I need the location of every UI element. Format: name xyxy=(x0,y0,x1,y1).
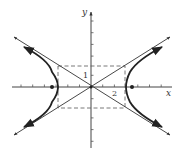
hyperbola-figure: y x 1 2 xyxy=(0,0,181,160)
y-tick-label-1: 1 xyxy=(83,71,88,80)
x-axis-label: x xyxy=(166,88,171,98)
y-axis-label: y xyxy=(81,7,88,17)
y-axis xyxy=(91,12,94,148)
focus-right xyxy=(130,85,134,89)
focus-left xyxy=(50,85,54,89)
x-tick-label-2: 2 xyxy=(112,89,117,98)
origin-point xyxy=(90,86,93,89)
